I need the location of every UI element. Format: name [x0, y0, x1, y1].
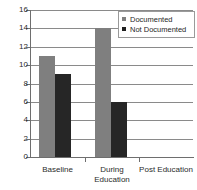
legend-label-not-documented: Not Documented: [130, 25, 186, 34]
y-tick-label-14: 14: [6, 24, 28, 32]
bar-during-education-not-documented: [111, 102, 127, 157]
y-tick-label-16: 16: [6, 6, 28, 14]
legend-swatch-not-documented-icon: [122, 27, 126, 31]
y-tick-label-4: 4: [6, 116, 28, 124]
y-tick-label-12: 12: [6, 43, 28, 51]
legend-item-not-documented: Not Documented: [122, 24, 191, 34]
x-label-during-education: During Education: [85, 165, 139, 185]
bar-chart: 16 14 12 10 8 6 4 2 0 Baseline During Ed…: [0, 0, 197, 190]
x-label-post-education: Post Education: [137, 165, 195, 175]
x-tick-mark-2: [139, 157, 140, 162]
legend-swatch-documented-icon: [122, 17, 126, 21]
y-tick-label-6: 6: [6, 98, 28, 106]
x-label-baseline: Baseline: [30, 165, 85, 175]
legend-label-documented: Documented: [130, 15, 173, 24]
bar-baseline-documented: [39, 56, 55, 157]
x-tick-mark-1: [85, 157, 86, 162]
y-tick-label-10: 10: [6, 61, 28, 69]
legend: Documented Not Documented: [118, 11, 195, 38]
x-axis-line: [30, 157, 194, 158]
y-tick-label-8: 8: [6, 80, 28, 88]
bar-during-education-documented: [95, 28, 111, 157]
legend-item-documented: Documented: [122, 14, 191, 24]
gridline-12: [30, 47, 193, 48]
y-tick-label-2: 2: [6, 135, 28, 143]
y-tick-label-0: 0: [6, 153, 28, 161]
bar-baseline-not-documented: [55, 74, 71, 157]
